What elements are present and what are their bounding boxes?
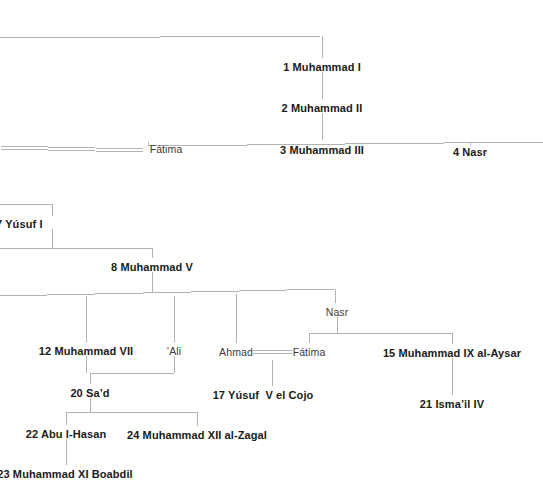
person-muhammad-ix: 15 Muhammad IX al-Aysar	[383, 347, 521, 360]
person-muhammad-vii: 12 Muhammad VII	[39, 345, 133, 358]
person-muhammad-v: 8 Muhammad V	[111, 261, 193, 274]
connector-top-sibling-bar	[0, 36, 322, 38]
person-fatima-upper: Fátima	[150, 143, 183, 156]
marriage-line-marriage-ahmad-fatima	[253, 350, 292, 353]
person-ahmad: Ahmad	[219, 346, 253, 359]
person-ali: ‘Ali	[167, 345, 181, 358]
person-muhammad-i: 1 Muhammad I	[283, 61, 361, 74]
person-fatima-lower: Fátima	[293, 346, 326, 359]
person-ismail-iv: 21 Isma’il IV	[420, 398, 484, 411]
person-nasr-4: 4 Nasr	[453, 146, 487, 159]
genealogy-diagram: 1 Muhammad I2 Muhammad IIFátima3 Muhamma…	[0, 0, 543, 482]
person-nasr-son: Nasr	[326, 306, 349, 319]
person-muhammad-ii: 2 Muhammad II	[282, 102, 363, 115]
marriage-line-marriage-fatima-upper	[0, 146, 143, 152]
person-muhammad-iii: 3 Muhammad III	[280, 144, 364, 157]
person-sad: 20 Sa’d	[70, 387, 109, 400]
person-muhammad-xii: 24 Muhammad XII al-Zagal	[127, 429, 267, 442]
person-yusuf-v: 17 Yúsuf V el Cojo	[213, 389, 314, 402]
person-muhammad-xi-boabdil: 23 Muhammad XI Boabdil	[0, 468, 133, 481]
person-abu-l-hasan: 22 Abu l-Hasan	[26, 428, 106, 441]
connector-gen-vi-bar	[0, 289, 335, 296]
person-yusuf-i: 7 Yúsuf I	[0, 218, 43, 231]
